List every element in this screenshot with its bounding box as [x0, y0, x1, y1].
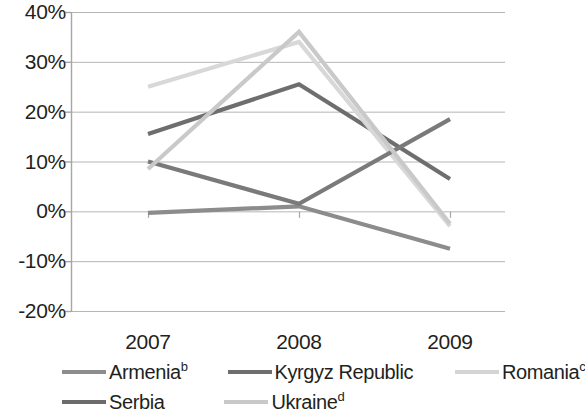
x-axis-tick-labels: 200720082009: [0, 328, 513, 360]
series-line-ukraine: [148, 32, 450, 224]
legend-footnote-marker: d: [338, 389, 345, 404]
legend-row-1: ArmeniabKyrgyz RepublicRomaniac: [0, 358, 513, 386]
legend-line-swatch-icon: [62, 400, 106, 404]
legend-line-swatch-icon: [224, 400, 268, 404]
x-tick-label-2009: 2009: [427, 330, 473, 354]
y-tick-label: 30%: [4, 51, 66, 72]
legend-label: Armeniab: [109, 361, 188, 383]
legend-footnote-marker: b: [181, 359, 188, 374]
y-tick-label: -20%: [4, 300, 66, 321]
legend-label: Kyrgyz Republic: [275, 361, 414, 383]
series-line-romania: [148, 42, 450, 226]
y-tick-label: 40%: [4, 1, 66, 22]
legend-item-ukraine[interactable]: Ukrained: [224, 391, 344, 413]
y-tick-label: 20%: [4, 101, 66, 122]
legend-item-serbia[interactable]: Serbia: [62, 391, 164, 413]
x-tick-label-2008: 2008: [276, 330, 322, 354]
legend-label: Ukrained: [271, 391, 344, 413]
legend-label: Serbia: [109, 391, 164, 413]
legend-line-swatch-icon: [455, 370, 499, 374]
legend-line-swatch-icon: [228, 370, 272, 374]
y-tick-label: -10%: [4, 250, 66, 271]
y-tick-label: 10%: [4, 151, 66, 172]
gridlines: [71, 13, 505, 312]
y-tick-label: 0%: [4, 200, 66, 221]
legend-row-2: SerbiaUkrained: [0, 388, 513, 416]
legend-item-romania[interactable]: Romaniac: [455, 361, 585, 383]
chart-legend: ArmeniabKyrgyz RepublicRomaniac SerbiaUk…: [0, 358, 513, 420]
legend-item-kyrgyz-republic[interactable]: Kyrgyz Republic: [228, 361, 414, 383]
legend-footnote-marker: c: [579, 359, 585, 374]
plot-svg: [0, 0, 513, 330]
legend-line-swatch-icon: [62, 370, 106, 374]
y-axis-tick-labels: 40%30%20%10%0%-10%-20%: [0, 0, 66, 330]
legend-label: Romaniac: [502, 361, 585, 383]
x-tick-label-2007: 2007: [125, 330, 171, 354]
plot-area: [0, 0, 513, 330]
legend-item-armenia[interactable]: Armeniab: [62, 361, 188, 383]
